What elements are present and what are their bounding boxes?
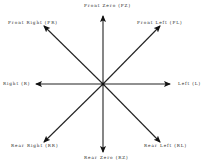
arrow-front-left bbox=[103, 26, 160, 84]
label-front-right: Front Right (FR) bbox=[8, 21, 58, 25]
label-front-zero: Front Zero (FZ) bbox=[84, 4, 131, 8]
arrow-rear-left bbox=[103, 84, 160, 142]
label-rear-left: Rear Left (RL) bbox=[144, 144, 187, 148]
label-right: Right (R) bbox=[3, 82, 30, 86]
label-rear-zero: Rear Zero (RZ) bbox=[84, 156, 129, 160]
arrow-front-right bbox=[44, 26, 103, 84]
label-rear-right: Rear Right (RR) bbox=[11, 144, 58, 148]
arrow-rear-right bbox=[44, 84, 103, 142]
center-point bbox=[102, 83, 105, 86]
label-left: Left (L) bbox=[178, 82, 201, 86]
label-front-left: Front Left (FL) bbox=[137, 21, 182, 25]
